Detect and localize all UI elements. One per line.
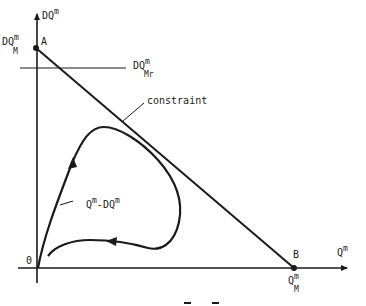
trajectory-label: Qm-DQm xyxy=(86,196,120,210)
direction-arrow-left xyxy=(106,237,117,246)
point-a-label: A xyxy=(41,36,47,47)
point-a-marker xyxy=(33,45,39,51)
caption-fragment xyxy=(184,302,191,304)
constraint-leader xyxy=(123,103,144,121)
caption-fragment xyxy=(212,302,219,304)
origin-label: 0 xyxy=(26,255,32,266)
point-b-label: B xyxy=(293,249,299,260)
phase-diagram: DQm DQm M A DQm Mr constraint Qm-DQm 0 B… xyxy=(0,0,366,306)
y-axis-label: DQm xyxy=(42,7,59,21)
point-b-value-label: Qm xyxy=(288,272,299,286)
point-b-value-sub: M xyxy=(294,285,299,294)
point-a-value-label: DQm xyxy=(2,33,19,47)
trajectory-leader xyxy=(60,201,73,205)
point-b-marker xyxy=(291,265,297,271)
direction-arrow-up xyxy=(68,157,77,169)
reference-line-label: DQm xyxy=(133,57,150,71)
constraint-label: constraint xyxy=(147,95,207,106)
trajectory-curve xyxy=(38,127,180,268)
point-a-value-sub: M xyxy=(13,47,18,56)
reference-line-sub: Mr xyxy=(144,70,154,79)
x-axis-label: Qm xyxy=(337,244,348,258)
